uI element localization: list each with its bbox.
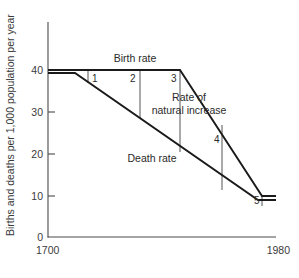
death-rate-label: Death rate xyxy=(127,152,176,164)
y-tick-label-0: 0 xyxy=(37,231,43,243)
stage-number-3: 3 xyxy=(171,73,177,84)
chart-canvas: 40 30 20 10 0 Births and deaths per 1,00… xyxy=(0,0,299,278)
birth-rate-label: Birth rate xyxy=(114,52,157,64)
stage-number-1: 1 xyxy=(92,73,98,84)
death-rate-line xyxy=(48,73,276,200)
y-tick-label-10: 10 xyxy=(31,190,43,202)
y-tick-label-30: 30 xyxy=(31,106,43,118)
y-tick-label-40: 40 xyxy=(31,64,43,76)
x-axis-end-label: 1980 xyxy=(267,244,291,256)
x-axis-start-label: 1700 xyxy=(36,244,60,256)
demographic-transition-chart: 40 30 20 10 0 Births and deaths per 1,00… xyxy=(0,0,299,278)
natural-increase-label-line2: natural increase xyxy=(152,104,227,116)
natural-increase-label-line1: Rate of xyxy=(172,91,206,103)
stage-number-4: 4 xyxy=(214,134,220,145)
y-axis-title: Births and deaths per 1,000 population p… xyxy=(4,14,16,236)
stage-number-5: 5 xyxy=(254,195,260,206)
stage-number-2: 2 xyxy=(130,73,136,84)
y-tick-label-20: 20 xyxy=(31,148,43,160)
